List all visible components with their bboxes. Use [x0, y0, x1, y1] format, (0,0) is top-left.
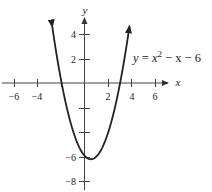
x-tick-label: −6	[9, 91, 20, 102]
y-tick-label: −8	[65, 176, 76, 187]
parabola-curve	[52, 26, 129, 159]
y-tick-label: −6	[65, 152, 76, 163]
x-tick-label: 2	[106, 91, 111, 102]
equation-label: y = x2 − x − 6	[131, 49, 201, 65]
y-tick-label: 4	[71, 29, 76, 40]
y-tick-label: 2	[71, 54, 76, 65]
x-tick-label: 4	[130, 91, 135, 102]
y-axis-label: y	[82, 4, 88, 16]
x-tick-label: −4	[32, 91, 43, 102]
x-axis-label: x	[175, 76, 181, 88]
x-tick-label: 6	[153, 91, 158, 102]
parabola-graph: −6 −4 2 4 6 4 2 −6 −8 y x y = x2 − x − 6	[0, 0, 212, 192]
